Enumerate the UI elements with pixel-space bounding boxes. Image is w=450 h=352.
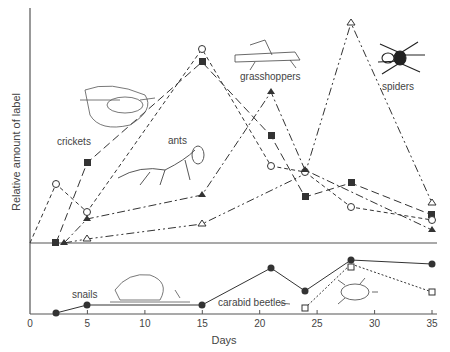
svg-text:15: 15 [197,318,209,329]
markers-carabid-beetles [302,264,435,311]
x-tick-labels: 0 5 10 15 20 25 30 35 [27,318,438,329]
svg-text:0: 0 [27,318,33,329]
label-carabid-beetles: carabid beetles [218,297,286,308]
axes [30,8,437,314]
svg-text:5: 5 [85,318,91,329]
series-carabid-beetles [305,264,432,308]
carabid-beetle-illustration [338,278,378,304]
snail-illustration [110,275,190,302]
label-ants: ants [168,135,187,146]
svg-text:30: 30 [369,318,381,329]
svg-text:10: 10 [139,318,151,329]
markers-spiders [83,19,436,241]
svg-text:20: 20 [254,318,266,329]
x-axis-label: Days [211,334,237,346]
spider-illustration [378,42,425,74]
grasshopper-illustration [235,40,300,70]
cricket-illustration [80,86,155,127]
ant-illustration [118,146,204,185]
label-snails: snails [72,289,98,300]
svg-text:35: 35 [426,318,438,329]
series-grasshoppers [64,92,432,243]
svg-text:25: 25 [312,318,324,329]
y-axis-label: Relative amount of label [10,93,22,211]
label-spiders: spiders [382,81,414,92]
series-spiders [64,23,432,243]
label-grasshoppers: grasshoppers [240,71,301,82]
chart: 0 5 10 15 20 25 30 35 Days Relative amou… [0,0,450,352]
series-crickets [56,62,432,243]
label-crickets: crickets [57,136,91,147]
